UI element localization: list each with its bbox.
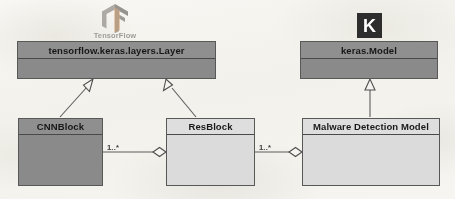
tensorflow-wordmark: TensorFlow <box>87 31 143 40</box>
class-box-malware-detection-model[interactable]: Malware Detection Model <box>302 118 440 186</box>
generalization-resblock-to-layer <box>164 79 197 117</box>
class-title-keras-model: keras.Model <box>301 42 437 59</box>
class-body-cnnblock <box>19 135 102 185</box>
class-body-resblock <box>167 135 254 185</box>
keras-logo: K <box>357 13 382 38</box>
class-box-tensorflow-keras-layers-layer[interactable]: tensorflow.keras.layers.Layer <box>17 41 216 79</box>
class-box-resblock[interactable]: ResBlock <box>166 118 255 186</box>
tensorflow-logo: TensorFlow <box>87 1 143 40</box>
class-title-malware-detection-model: Malware Detection Model <box>303 119 439 135</box>
class-body-tensorflow-keras-layers-layer <box>18 59 215 78</box>
class-title-tensorflow-keras-layers-layer: tensorflow.keras.layers.Layer <box>18 42 215 59</box>
generalization-malware-to-keras-model <box>365 79 375 117</box>
multiplicity-label-resblock-malware: 1..* <box>259 143 271 152</box>
class-body-keras-model <box>301 59 437 78</box>
class-body-malware-detection-model <box>303 135 439 185</box>
generalization-cnnblock-to-layer <box>60 79 93 117</box>
keras-logo-letter: K <box>363 17 376 35</box>
multiplicity-label-cnnblock-resblock: 1..* <box>107 143 119 152</box>
class-title-resblock: ResBlock <box>167 119 254 135</box>
class-box-cnnblock[interactable]: CNNBlock <box>18 118 103 186</box>
class-box-keras-model[interactable]: keras.Model <box>300 41 438 79</box>
uml-class-diagram: TensorFlow K <box>0 0 455 199</box>
class-title-cnnblock: CNNBlock <box>19 119 102 135</box>
